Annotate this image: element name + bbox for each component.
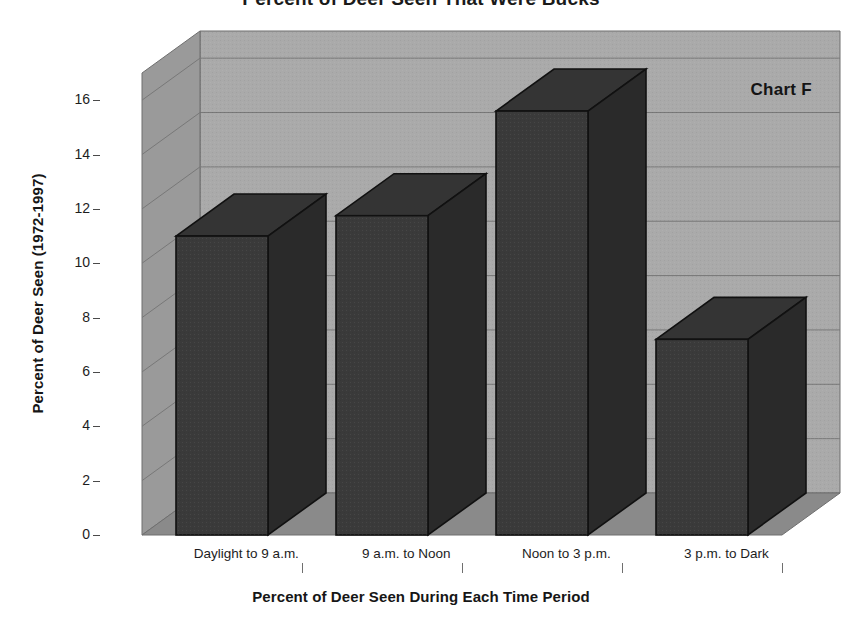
y-axis-tick-mark <box>93 318 100 319</box>
x-axis-category-label: Noon to 3 p.m. <box>476 546 656 561</box>
bar-texture <box>336 216 428 535</box>
y-axis-tick-mark <box>93 155 100 156</box>
y-axis-tick-label: 2 <box>44 472 90 488</box>
y-axis-tick-mark <box>93 426 100 427</box>
plot-area: Chart F <box>100 28 842 568</box>
y-axis-tick-label: 10 <box>44 254 90 270</box>
chart-title: Percent of Deer Seen That Were Bucks <box>0 0 842 10</box>
x-axis-category-label: Daylight to 9 a.m. <box>156 546 336 561</box>
bar-side-face <box>748 297 806 535</box>
chart-annotation-label: Chart F <box>750 80 812 100</box>
bar-side-face <box>268 194 326 535</box>
chart-figure: Percent of Deer Seen That Were Bucks Per… <box>0 0 842 621</box>
y-axis-tick-mark <box>93 263 100 264</box>
y-axis-tick-label: 6 <box>44 363 90 379</box>
y-axis-tick-label: 4 <box>44 417 90 433</box>
y-axis-tick-mark <box>93 535 100 536</box>
y-axis-tick-label: 8 <box>44 309 90 325</box>
y-axis-tick-mark <box>93 100 100 101</box>
y-axis-tick-label: 12 <box>44 200 90 216</box>
y-axis-tick-mark <box>93 372 100 373</box>
bar-side-face <box>428 174 486 535</box>
y-axis-tick-label: 14 <box>44 146 90 162</box>
x-axis-category-label: 9 a.m. to Noon <box>316 546 496 561</box>
bar-texture <box>496 111 588 535</box>
y-axis-tick-mark <box>93 209 100 210</box>
bar-side-face <box>588 69 646 535</box>
bar-column <box>656 297 806 535</box>
x-axis-tick-mark <box>622 563 623 573</box>
x-axis-tick-mark <box>462 563 463 573</box>
bar-column <box>336 174 486 535</box>
x-axis-category-label: 3 p.m. to Dark <box>636 546 816 561</box>
bar-column <box>176 194 326 535</box>
y-axis-tick-label: 0 <box>44 526 90 542</box>
y-axis-tick-label: 16 <box>44 91 90 107</box>
x-axis-tick-mark <box>302 563 303 573</box>
plot-svg <box>100 28 842 568</box>
y-axis-title: Percent of Deer Seen (1972-1997) <box>29 124 46 464</box>
y-axis-tick-mark <box>93 481 100 482</box>
bar-texture <box>176 236 268 535</box>
x-axis-title: Percent of Deer Seen During Each Time Pe… <box>0 588 842 605</box>
bar-column <box>496 69 646 535</box>
bar-texture <box>656 339 748 535</box>
x-axis-tick-mark <box>782 563 783 573</box>
